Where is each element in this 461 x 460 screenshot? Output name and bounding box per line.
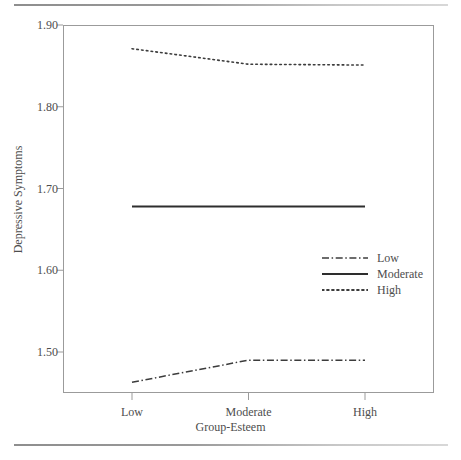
x-tick-label-low: Low xyxy=(121,406,143,418)
x-tick-label-high: High xyxy=(353,406,377,418)
legend-item-moderate: Moderate xyxy=(322,266,427,282)
x-axis-title: Group-Esteem xyxy=(0,420,461,435)
y-tick-label-150: 1.50 xyxy=(16,346,58,358)
x-tick-label-moderate: Moderate xyxy=(226,406,272,418)
legend-label-moderate: Moderate xyxy=(368,268,423,280)
legend-solid-line-icon xyxy=(322,268,368,280)
legend-dashdot-line-icon xyxy=(322,252,368,264)
legend-label-low: Low xyxy=(368,252,399,264)
figure-container: 1.90 1.80 1.70 1.60 1.50 Low Moderate Hi… xyxy=(0,0,461,460)
chart-legend: Low Moderate High xyxy=(322,250,427,298)
legend-dotted-line-icon xyxy=(322,284,368,296)
y-tick-label-190: 1.90 xyxy=(16,19,58,31)
bottom-divider-rule xyxy=(14,444,448,446)
y-axis-title: Depressive Symptoms xyxy=(11,120,26,280)
top-divider-rule xyxy=(14,4,448,6)
legend-item-high: High xyxy=(322,282,427,298)
x-tick-marks xyxy=(132,393,365,400)
legend-item-low: Low xyxy=(322,250,427,266)
legend-label-high: High xyxy=(368,284,401,296)
plot-area-frame xyxy=(63,25,434,393)
y-tick-label-180: 1.80 xyxy=(16,101,58,113)
